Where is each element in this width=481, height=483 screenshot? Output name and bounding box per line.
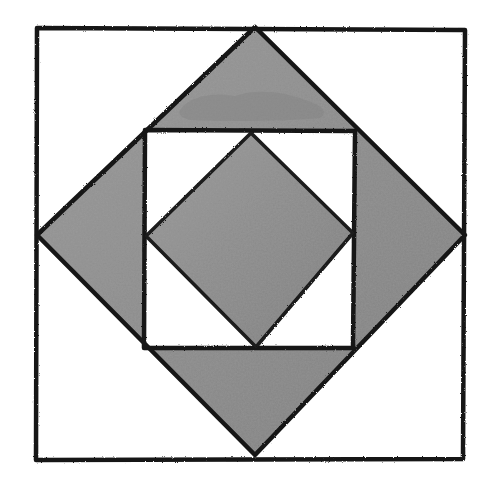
quilt-block-diagram xyxy=(0,0,481,483)
